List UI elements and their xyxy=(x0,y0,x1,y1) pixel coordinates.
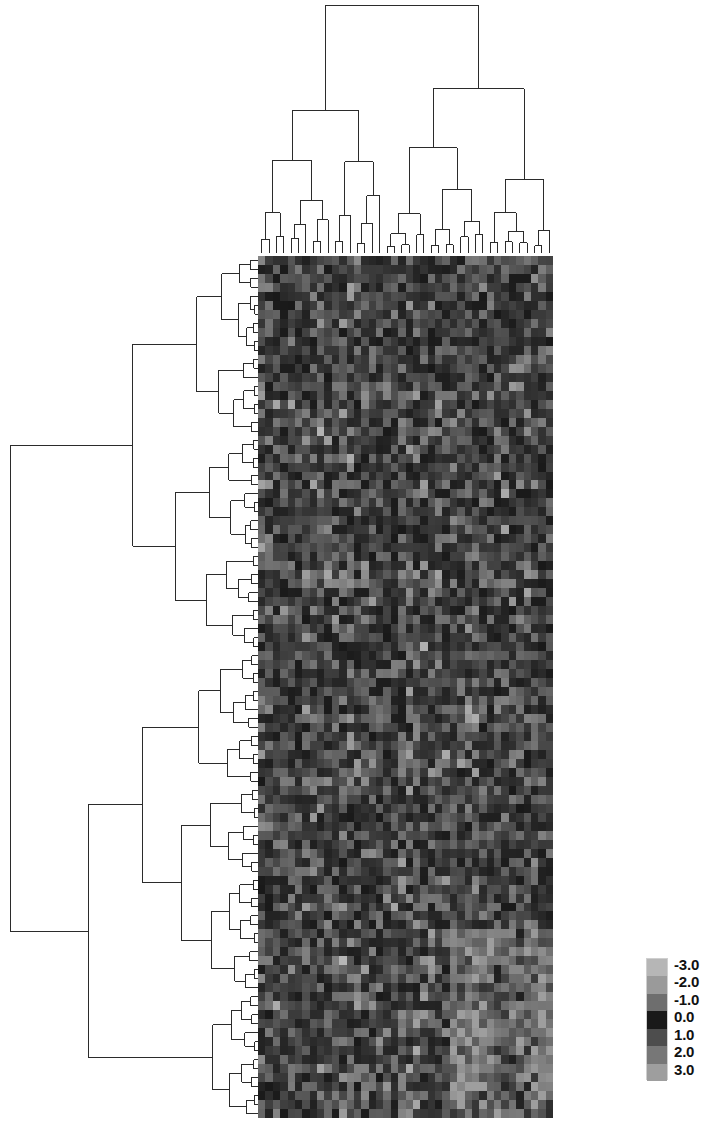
legend-swatch xyxy=(647,1011,667,1028)
color-scale-legend: -3.0-2.0-1.00.01.02.03.0 xyxy=(646,956,718,1082)
legend-tick-label: 0.0 xyxy=(674,1008,718,1025)
heatmap-canvas xyxy=(258,256,553,1118)
legend-swatch xyxy=(647,1046,667,1063)
legend-swatch xyxy=(647,959,667,976)
heatmap-figure: -3.0-2.0-1.00.01.02.03.0 xyxy=(0,0,718,1129)
legend-label-column: -3.0-2.0-1.00.01.02.03.0 xyxy=(674,956,718,1082)
legend-swatch-column xyxy=(646,958,668,1080)
legend-tick-label: -1.0 xyxy=(674,991,718,1008)
legend-tick-label: -3.0 xyxy=(674,956,718,973)
legend-swatch xyxy=(647,1029,667,1046)
legend-swatch xyxy=(647,976,667,993)
legend-tick-label: -2.0 xyxy=(674,973,718,990)
legend-tick-label: 1.0 xyxy=(674,1026,718,1043)
expression-heatmap xyxy=(258,256,553,1118)
legend-swatch xyxy=(647,1064,667,1081)
legend-tick-label: 3.0 xyxy=(674,1061,718,1078)
legend-swatch xyxy=(647,994,667,1011)
legend-tick-label: 2.0 xyxy=(674,1043,718,1060)
